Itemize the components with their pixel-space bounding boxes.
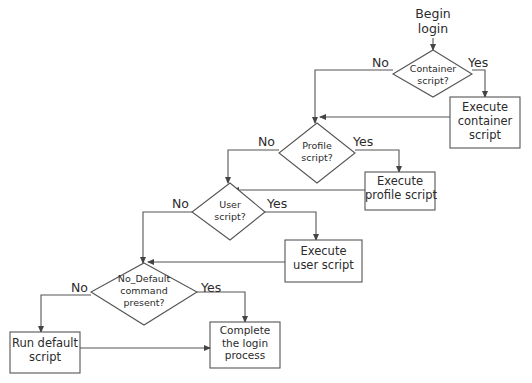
process-text: profile script (365, 189, 435, 203)
decision-text: script? (205, 211, 255, 223)
process-text: script (10, 351, 80, 365)
arrow-user-yes (265, 212, 316, 240)
decision-text: script? (292, 152, 342, 164)
decision-text: User (205, 199, 255, 211)
decision-user-label: User script? (205, 199, 255, 223)
process-execute-profile-label: Execute profile script (365, 175, 435, 203)
arrow-container-yes (472, 70, 485, 97)
process-run-default-label: Run default script (10, 337, 80, 365)
process-text: container (450, 115, 520, 129)
process-execute-user-label: Execute user script (285, 245, 362, 273)
process-text: Execute (285, 245, 362, 259)
arrow-profile-no (228, 150, 279, 183)
process-execute-container-label: Execute container script (450, 101, 520, 142)
start-label-line2: login (411, 21, 455, 36)
arrow-no-default-yes (197, 292, 245, 322)
arrow-no-default-no (41, 295, 91, 332)
process-text: Complete (210, 324, 280, 337)
process-complete-login-label: Complete the login process (210, 324, 280, 362)
decision-no-default-label: No_Default command present? (112, 273, 176, 309)
process-text: user script (285, 259, 362, 273)
arrow-profile-yes (355, 150, 399, 172)
decision-text: No_Default (112, 273, 176, 285)
start-label: Begin login (411, 6, 455, 36)
process-text: Execute (450, 101, 520, 115)
decision-text: present? (112, 297, 176, 309)
branch-label-no: No (71, 280, 88, 295)
decision-container-label: Container script? (403, 63, 463, 87)
decision-text: Profile (292, 140, 342, 152)
branch-label-no: No (258, 134, 275, 149)
process-text: Run default (10, 337, 80, 351)
process-text: script (450, 129, 520, 143)
branch-label-yes: Yes (468, 55, 488, 70)
branch-label-yes: Yes (201, 280, 221, 295)
branch-label-no: No (372, 55, 389, 70)
arrow-container-no (315, 70, 393, 123)
branch-label-yes: Yes (353, 134, 373, 149)
arrow-user-no (143, 212, 192, 263)
start-label-line1: Begin (411, 6, 455, 21)
process-text: the login (210, 337, 280, 350)
decision-profile-label: Profile script? (292, 140, 342, 164)
decision-text: Container (403, 63, 463, 75)
decision-text: script? (403, 75, 463, 87)
branch-label-no: No (172, 196, 189, 211)
branch-label-yes: Yes (267, 196, 287, 211)
decision-text: command (112, 285, 176, 297)
process-text: process (210, 349, 280, 362)
process-text: Execute (365, 175, 435, 189)
